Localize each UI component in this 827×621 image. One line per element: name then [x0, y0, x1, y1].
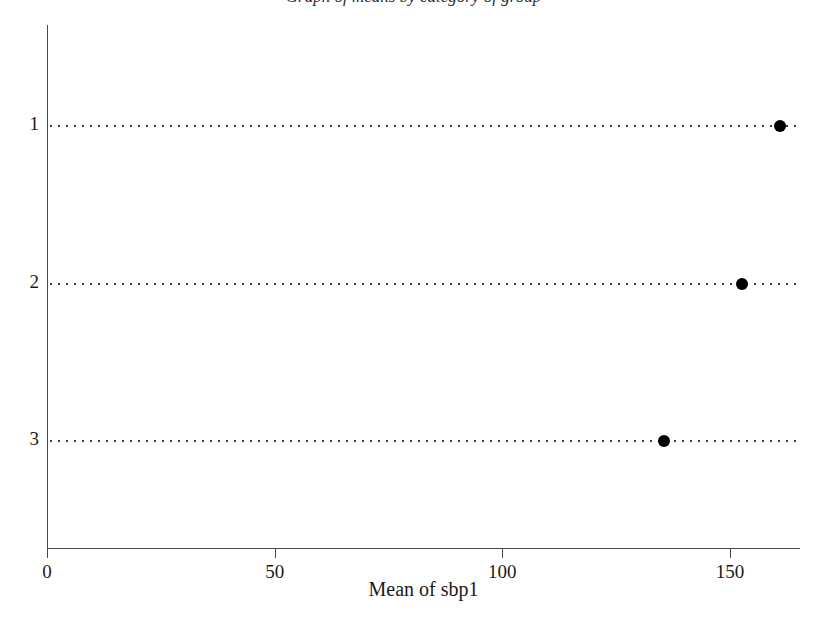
y-axis-line	[47, 25, 48, 549]
x-axis-tick-100	[502, 549, 503, 558]
data-point-category-3[interactable]	[658, 435, 670, 447]
chart-title-clipped: Graph of means by category of group	[0, 0, 827, 7]
chart-title-text: Graph of means by category of group	[0, 0, 827, 7]
data-point-category-2[interactable]	[736, 278, 748, 290]
x-axis-tick-50	[275, 549, 276, 558]
x-axis-tick-0	[47, 549, 48, 558]
x-axis-line	[47, 548, 800, 549]
gridline-category-3	[47, 440, 800, 442]
gridline-category-1	[47, 125, 800, 127]
y-axis-tick-label-2: 2	[0, 271, 39, 293]
y-axis-tick-label-1: 1	[0, 113, 39, 135]
dot-plot-chart: Graph of means by category of group 123 …	[0, 0, 827, 621]
x-axis-tick-150	[730, 549, 731, 558]
data-point-category-1[interactable]	[774, 120, 786, 132]
y-axis-tick-label-3: 3	[0, 428, 39, 450]
gridline-category-2	[47, 283, 800, 285]
x-axis-title: Mean of sbp1	[47, 578, 800, 601]
